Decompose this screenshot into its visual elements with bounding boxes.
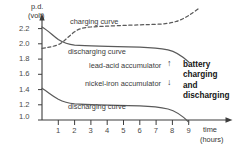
x-tick-label-8: 8 (170, 127, 174, 135)
battery-charge-discharge-figure: p.d. (volt) 2.2 2.0 1.8 1.6 1.4 1.2 1.0 … (0, 0, 242, 149)
caption-line-4: discharging (183, 91, 241, 101)
caption-line-1: battery (183, 60, 241, 70)
discharging-curve-lead-acid (42, 27, 189, 62)
y-tick-label-1-8: 1.8 (19, 55, 30, 63)
y-tick-label-2-2: 2.2 (19, 25, 30, 33)
y-axis-label: p.d. (31, 3, 43, 11)
x-tick-label-3: 3 (89, 127, 93, 135)
y-tick-label-1-0: 1.0 (19, 113, 30, 121)
up-arrow-icon: ↑ (167, 59, 172, 68)
caption-line-2: charging (183, 70, 241, 80)
y-tick-marks (38, 29, 42, 120)
discharging-curve-label-bottom: discharging curve (68, 103, 126, 111)
x-tick-label-4: 4 (105, 127, 109, 135)
x-axis-unit: (hours) (200, 136, 223, 144)
caption-line-3: and (183, 81, 241, 91)
discharging-curve-label-top: discharging curve (68, 48, 126, 56)
x-tick-marks (58, 120, 188, 125)
y-tick-label-1-2: 1.2 (19, 101, 30, 109)
charging-curve-lead-acid (42, 9, 198, 48)
x-tick-label-2: 2 (72, 127, 76, 135)
y-tick-label-2-0: 2.0 (19, 40, 30, 48)
y-tick-label-1-4: 1.4 (19, 86, 30, 94)
x-axis-label: time (203, 126, 217, 134)
charging-curve-label: charging curve (70, 18, 118, 26)
x-tick-label-7: 7 (154, 127, 158, 135)
y-axis-unit: (volt) (28, 12, 44, 20)
x-axis-arrowhead (226, 117, 233, 122)
x-tick-label-5: 5 (121, 127, 125, 135)
x-tick-label-6: 6 (138, 127, 142, 135)
x-tick-label-9: 9 (186, 127, 190, 135)
x-tick-label-1: 1 (56, 127, 60, 135)
down-arrow-icon: ↓ (167, 78, 172, 87)
y-tick-label-1-6: 1.6 (19, 70, 30, 78)
nickel-iron-accumulator-label: nickel-iron accumulator (85, 80, 161, 88)
figure-caption: battery charging and discharging (183, 60, 241, 101)
lead-acid-accumulator-label: lead-acid accumulator (89, 62, 161, 70)
